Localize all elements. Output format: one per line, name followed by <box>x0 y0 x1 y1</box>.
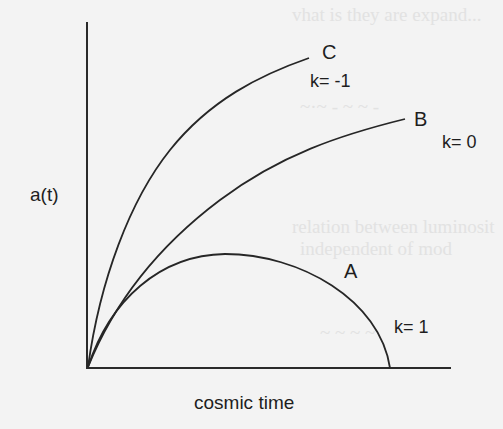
cosmology-diagram: vhat is they are expand... ~·~ - ~ ~ - r… <box>0 0 503 429</box>
curve-c-open <box>88 58 309 367</box>
curve-b-flat <box>88 119 405 367</box>
curve-c-k-label: k= -1 <box>310 72 351 90</box>
curve-a-letter: A <box>344 261 357 281</box>
curve-c-letter: C <box>322 42 336 62</box>
y-axis-label: a(t) <box>30 185 59 204</box>
plot-area <box>0 0 503 429</box>
x-axis-label: cosmic time <box>194 393 294 412</box>
curve-b-k-label: k= 0 <box>442 133 477 151</box>
curve-a-k-label: k= 1 <box>394 318 429 336</box>
curve-b-letter: B <box>414 109 427 129</box>
